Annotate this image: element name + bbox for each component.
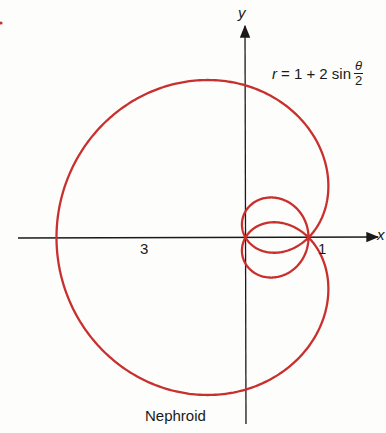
eq-lhs: r: [272, 65, 277, 82]
tick-label-3: 3: [140, 240, 148, 257]
chart-caption: Nephroid: [145, 407, 206, 424]
eq-frac-den: 2: [355, 74, 362, 88]
tick-label-1: 1: [318, 240, 326, 257]
equation-label: r = 1 + 2 sin θ 2: [272, 59, 363, 88]
eq-fraction: θ 2: [354, 59, 363, 88]
y-axis-label: y: [238, 4, 246, 21]
eq-frac-num: θ: [354, 59, 363, 74]
x-axis-label: x: [377, 226, 385, 243]
x-axis: [18, 237, 378, 238]
corner-dot: [0, 21, 3, 24]
eq-rhs: = 1 + 2 sin: [281, 65, 351, 82]
